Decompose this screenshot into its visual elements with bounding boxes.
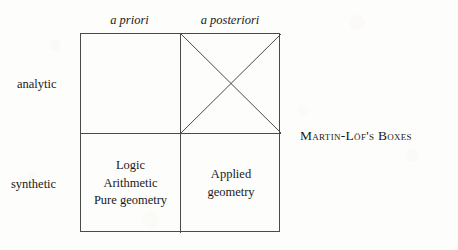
cell-text-arithmetic: Arithmetic [103, 175, 157, 193]
column-header-a-posteriori: a posteriori [180, 13, 280, 28]
cross-out-x-icon [181, 34, 281, 133]
cell-analytic-a-priori [81, 34, 180, 133]
cell-synthetic-a-posteriori: Applied geometry [181, 134, 281, 233]
cell-text-logic: Logic [116, 157, 145, 175]
cell-text-applied: Applied [211, 166, 251, 184]
matrix-box: Logic Arithmetic Pure geometry Applied g… [80, 33, 280, 232]
row-label-analytic: analytic [17, 77, 57, 92]
figure-caption: Martin-Löf's Boxes [300, 128, 412, 144]
column-header-a-priori: a priori [80, 13, 179, 28]
cell-text-geometry: geometry [207, 184, 254, 202]
figure-root: a priori a posteriori analytic synthetic… [0, 0, 458, 250]
row-label-synthetic: synthetic [11, 177, 56, 192]
cell-synthetic-a-priori: Logic Arithmetic Pure geometry [81, 134, 180, 233]
cell-text-pure-geometry: Pure geometry [94, 192, 167, 210]
